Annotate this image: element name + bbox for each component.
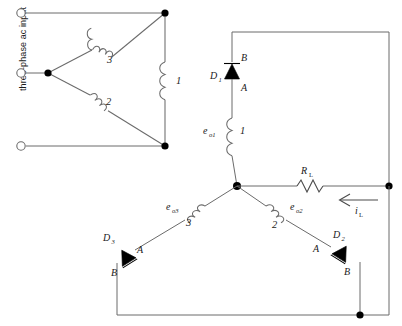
load-resistor-subscript: L <box>309 171 313 178</box>
circuit-diagram: three-phase ac input 3 2 1 <box>0 0 402 326</box>
D2-symbol-group <box>331 242 354 264</box>
D2-subscript: 2 <box>342 235 346 242</box>
D1-anode-triangle <box>225 64 240 79</box>
delta-winding-3-number: 3 <box>106 54 112 65</box>
node-delta-bottom <box>161 142 168 149</box>
branch2-wire-upper <box>237 186 266 206</box>
node-delta-left <box>44 69 51 76</box>
secondary-1-emf-label: e <box>203 125 208 136</box>
terminal-middle[interactable] <box>17 69 25 77</box>
load-resistor-label: R <box>300 165 307 176</box>
delta-winding-2-coil <box>90 94 106 111</box>
D1-label: D <box>209 70 218 81</box>
secondary-2-emf-subscript: o2 <box>296 207 303 214</box>
terminal-top[interactable] <box>17 9 25 17</box>
D3-subscript: 3 <box>111 238 116 245</box>
delta-winding-3-lead-a <box>48 50 92 73</box>
secondary-3-emf-subscript: o3 <box>172 207 179 214</box>
delta-winding-1-coil <box>160 62 165 100</box>
secondary-1-emf-subscript: o1 <box>209 131 216 138</box>
terminal-bottom[interactable] <box>17 142 25 150</box>
node-bottom-right <box>356 311 363 318</box>
branch1-wire-bottom <box>232 156 237 186</box>
D3-symbol-group <box>115 246 138 268</box>
delta-winding-3-lead-b <box>112 13 165 57</box>
D3-label: D <box>102 232 111 243</box>
D3-cathode-label: B <box>111 267 117 278</box>
secondary-3-emf-label: e <box>166 201 171 212</box>
D2-label: D <box>332 229 341 240</box>
D1-anode-label: A <box>240 82 248 93</box>
node-delta-top <box>161 9 168 16</box>
delta-winding-2-lead-a <box>48 73 90 95</box>
load-resistor-RL <box>297 180 323 192</box>
secondary-1-number: 1 <box>240 125 245 136</box>
D1-cathode-label: B <box>241 52 247 63</box>
D3-anode-triangle <box>115 246 136 266</box>
secondary-coil-1 <box>227 118 232 156</box>
D3-anode-label: A <box>136 244 144 255</box>
delta-winding-2-lead-b <box>108 111 165 146</box>
circuit-svg: 3 2 1 D 1 B A e o1 1 R L <box>0 0 402 326</box>
branch3-wire-upper <box>205 186 237 206</box>
D2-cathode-label: B <box>344 266 350 277</box>
secondary-2-number: 2 <box>272 219 278 230</box>
D1-subscript: 1 <box>219 76 222 83</box>
branch2-wire-lower <box>286 220 331 247</box>
secondary-2-emf-label: e <box>290 201 295 212</box>
D2-anode-triangle <box>332 242 353 262</box>
current-subscript: L <box>359 211 363 218</box>
delta-winding-1-number: 1 <box>176 75 181 86</box>
delta-winding-2-number: 2 <box>106 96 112 107</box>
current-label: i <box>355 205 358 216</box>
secondary-3-number: 3 <box>185 217 191 228</box>
D2-anode-label: A <box>312 243 320 254</box>
